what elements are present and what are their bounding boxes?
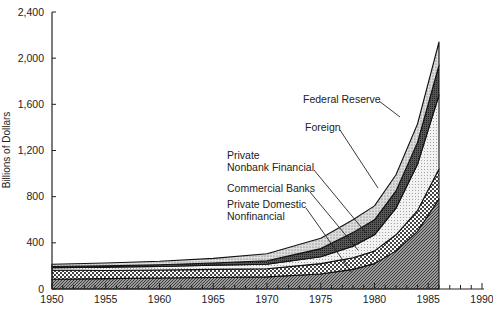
x-tick-label: 1985 bbox=[417, 293, 441, 305]
y-tick-label: 2,000 bbox=[18, 52, 44, 64]
x-tick-label: 1955 bbox=[94, 293, 118, 305]
svg-text:Federal Reserve: Federal Reserve bbox=[303, 93, 381, 105]
svg-text:Foreign: Foreign bbox=[305, 121, 341, 133]
x-tick-label: 1980 bbox=[363, 293, 387, 305]
y-tick-label: 2,400 bbox=[18, 6, 44, 18]
x-tick-label: 1965 bbox=[202, 293, 226, 305]
y-tick-label: 400 bbox=[26, 236, 44, 248]
y-axis-ticks: 04008001,2001,6002,0002,400 bbox=[18, 6, 56, 295]
y-tick-label: 800 bbox=[26, 190, 44, 202]
stacked-area-chart: 04008001,2001,6002,0002,400 195019551960… bbox=[0, 0, 493, 312]
annotation-federal-reserve: Federal Reserve bbox=[303, 93, 400, 117]
x-tick-label: 1960 bbox=[148, 293, 172, 305]
y-tick-label: 1,200 bbox=[18, 144, 44, 156]
svg-text:Nonbank Financial: Nonbank Financial bbox=[227, 161, 314, 173]
x-tick-label: 1950 bbox=[40, 293, 64, 305]
annotation-foreign: Foreign bbox=[305, 121, 378, 188]
y-tick-label: 1,600 bbox=[18, 98, 44, 110]
svg-text:Commercial Banks: Commercial Banks bbox=[227, 182, 315, 194]
x-tick-label: 1975 bbox=[309, 293, 333, 305]
y-axis-label: Billions of Dollars bbox=[1, 112, 12, 189]
x-tick-label: 1990 bbox=[470, 293, 493, 305]
svg-text:Private Domestic: Private Domestic bbox=[227, 198, 306, 210]
x-tick-label: 1970 bbox=[255, 293, 279, 305]
svg-text:Nonfinancial: Nonfinancial bbox=[227, 210, 285, 222]
svg-text:Private: Private bbox=[227, 149, 260, 161]
